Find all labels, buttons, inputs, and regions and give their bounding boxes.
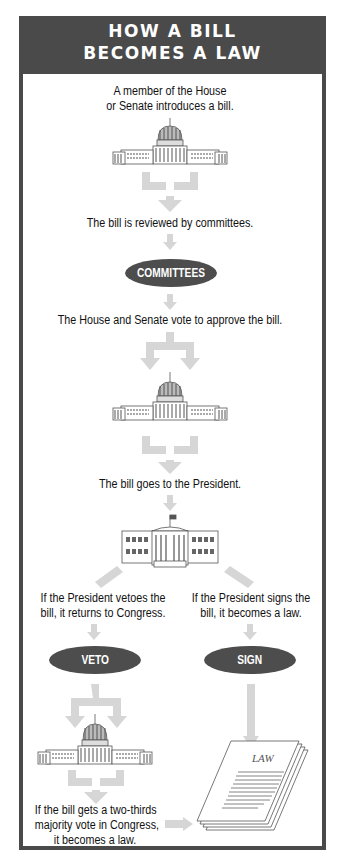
capitol-icon bbox=[113, 118, 227, 166]
sign-badge: SIGN bbox=[204, 646, 296, 674]
step-president-text: The bill goes to the President. bbox=[67, 477, 273, 492]
veto-branch-line-2: bill, it returns to Congress. bbox=[39, 606, 168, 621]
sign-branch-line-1: If the President signs the bbox=[188, 591, 314, 606]
override-line-3: it becomes a law. bbox=[35, 833, 155, 848]
override-line-1: If the bill gets a two-thirds bbox=[35, 803, 155, 818]
merge-arrow-icon bbox=[66, 770, 126, 806]
veto-branch-text: If the President vetoes the bill, it ret… bbox=[39, 591, 168, 621]
step-introduce-line-1: A member of the House bbox=[75, 84, 264, 99]
down-arrow-icon bbox=[243, 624, 257, 640]
down-arrow-icon bbox=[87, 624, 101, 640]
step-vote-text: The House and Senate vote to approve the… bbox=[41, 313, 299, 328]
override-line-2: majority vote in Congress, bbox=[35, 818, 155, 833]
capitol-icon bbox=[38, 714, 152, 766]
down-arrow-icon bbox=[163, 234, 177, 250]
sign-badge-label: SIGN bbox=[238, 653, 263, 667]
merge-arrow-icon bbox=[140, 172, 200, 214]
committees-badge: COMMITTEES bbox=[125, 259, 217, 287]
white-house-icon bbox=[120, 515, 220, 569]
split-arrow-icon bbox=[139, 332, 201, 372]
down-arrow-icon bbox=[163, 495, 177, 511]
step-introduce-text: A member of the House or Senate introduc… bbox=[75, 84, 264, 114]
capitol-icon bbox=[113, 372, 227, 422]
page-title: HOW A BILL BECOMES A LAW bbox=[19, 20, 326, 64]
right-arrow-icon bbox=[165, 817, 193, 831]
committees-badge-label: COMMITTEES bbox=[137, 266, 205, 280]
step-introduce-line-2: or Senate introduces a bill. bbox=[75, 99, 264, 114]
step-committee-text: The bill is reviewed by committees. bbox=[67, 216, 273, 231]
down-arrow-icon bbox=[163, 294, 177, 310]
branch-arrow-left-icon bbox=[95, 566, 123, 588]
long-down-arrow-icon bbox=[243, 684, 259, 748]
law-label: LAW bbox=[251, 752, 274, 764]
veto-badge: VETO bbox=[49, 646, 141, 674]
branch-arrow-right-icon bbox=[224, 566, 254, 588]
law-document-icon: LAW bbox=[200, 740, 312, 832]
veto-branch-line-1: If the President vetoes the bbox=[39, 591, 168, 606]
veto-badge-label: VETO bbox=[81, 653, 109, 667]
sign-branch-text: If the President signs the bill, it beco… bbox=[188, 591, 314, 621]
title-line-2: BECOMES A LAW bbox=[19, 42, 326, 64]
title-line-1: HOW A BILL bbox=[19, 20, 326, 42]
override-text: If the bill gets a two-thirds majority v… bbox=[35, 803, 155, 848]
sign-branch-line-2: bill, it becomes a law. bbox=[188, 606, 314, 621]
merge-arrow-icon bbox=[140, 436, 200, 476]
